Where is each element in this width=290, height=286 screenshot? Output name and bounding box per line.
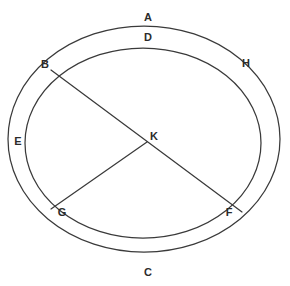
circle-geometry-diagram: B H K G F A D E C	[0, 0, 290, 286]
point-label-g: G	[58, 207, 67, 218]
radius-segment-gk	[51, 142, 147, 209]
arc-label-d: D	[144, 32, 152, 43]
arc-label-e: E	[14, 136, 21, 147]
point-label-h: H	[242, 58, 250, 69]
point-label-b: B	[41, 59, 49, 70]
arc-label-a: A	[144, 12, 152, 23]
arc-label-c: C	[144, 267, 152, 278]
diameter-segment-bf	[51, 70, 242, 212]
geometry-canvas	[0, 0, 290, 286]
point-label-k: K	[150, 131, 158, 142]
point-label-f: F	[226, 207, 233, 218]
